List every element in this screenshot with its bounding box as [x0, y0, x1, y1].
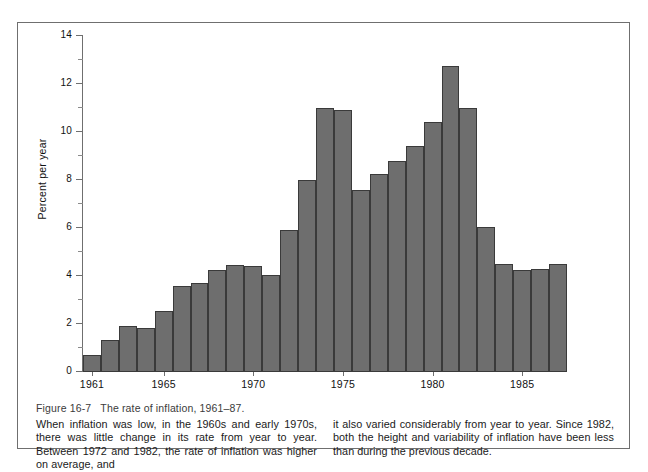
x-tick [343, 372, 344, 376]
bar [424, 122, 442, 372]
figure-title: The rate of inflation, 1961–87. [100, 402, 244, 414]
y-tick-label: 14 [20, 30, 72, 40]
bar [173, 286, 191, 372]
bar [442, 66, 460, 372]
y-tick-major [76, 275, 83, 276]
x-tick-label: 1980 [403, 379, 463, 390]
bar [208, 270, 226, 372]
y-tick-label-wrap: 6 [18, 222, 72, 232]
bar [191, 283, 209, 372]
bar [495, 264, 513, 372]
caption-text-right: it also varied considerably from year to… [333, 418, 614, 458]
x-tick-label: 1961 [62, 379, 122, 390]
y-tick-label-wrap: 0 [18, 366, 72, 376]
x-tick-label: 1975 [313, 379, 373, 390]
bar-series [83, 35, 567, 372]
bar [226, 265, 244, 372]
y-tick-major [76, 323, 83, 324]
figure-frame: Percent per year 02468101214 19611965197… [17, 22, 630, 449]
bar [388, 161, 406, 372]
y-tick-label-wrap: 12 [18, 78, 72, 88]
y-tick-label-wrap: 14 [18, 30, 72, 40]
x-tick [433, 372, 434, 376]
figure-caption: Figure 16-7The rate of inflation, 1961–8… [36, 401, 614, 472]
caption-heading: Figure 16-7The rate of inflation, 1961–8… [36, 401, 614, 415]
bar [280, 230, 298, 372]
caption-column-right: it also varied considerably from year to… [333, 418, 614, 472]
y-tick-major [76, 179, 83, 180]
y-tick-label: 12 [20, 78, 72, 88]
x-tick-label: 1965 [134, 379, 194, 390]
y-tick-major [76, 227, 83, 228]
y-tick-label: 0 [20, 366, 72, 376]
bar [334, 110, 352, 372]
x-tick-label: 1985 [492, 379, 552, 390]
bar [531, 269, 549, 372]
bar [316, 108, 334, 372]
bar [352, 190, 370, 372]
x-tick [164, 372, 165, 376]
bar [406, 146, 424, 372]
x-tick [253, 372, 254, 376]
bar [459, 108, 477, 372]
bar [370, 174, 388, 372]
bar [549, 264, 567, 372]
x-tick [92, 372, 93, 376]
figure-number: Figure 16-7 [36, 402, 91, 414]
bar [298, 180, 316, 372]
y-tick-label-wrap: 2 [18, 318, 72, 328]
bar [137, 328, 155, 372]
y-tick-label-wrap: 8 [18, 174, 72, 184]
x-tick-label: 1970 [223, 379, 283, 390]
bar [101, 340, 119, 372]
y-tick-major [76, 35, 83, 36]
bar [244, 266, 262, 372]
y-tick-label-wrap: 10 [18, 126, 72, 136]
y-tick-label: 6 [20, 222, 72, 232]
caption-column-left: When inflation was low, in the 1960s and… [36, 418, 317, 472]
bar [155, 311, 173, 372]
y-tick-major [76, 131, 83, 132]
bar [262, 275, 280, 372]
x-tick [522, 372, 523, 376]
y-tick-label: 4 [20, 270, 72, 280]
y-tick-major [76, 371, 83, 372]
chart-plot-area: Percent per year 02468101214 19611965197… [18, 23, 631, 381]
caption-text-left: When inflation was low, in the 1960s and… [36, 418, 317, 472]
y-tick-major [76, 83, 83, 84]
y-tick-label: 8 [20, 174, 72, 184]
caption-columns: When inflation was low, in the 1960s and… [36, 418, 614, 472]
bar [83, 355, 101, 372]
y-tick-label-wrap: 4 [18, 270, 72, 280]
bar [513, 270, 531, 372]
bar [477, 227, 495, 372]
y-tick-label: 2 [20, 318, 72, 328]
bar [119, 326, 137, 372]
y-tick-label: 10 [20, 126, 72, 136]
